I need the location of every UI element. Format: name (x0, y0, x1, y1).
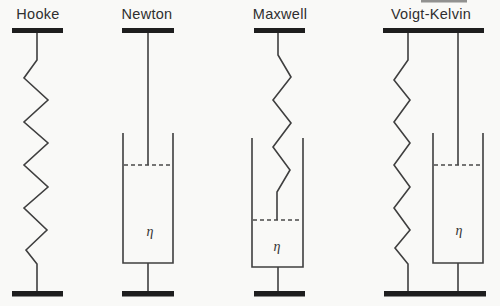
model-hooke: Hooke (12, 6, 63, 297)
model-label-maxwell: Maxwell (253, 6, 307, 22)
model-newton: Newton η (122, 6, 174, 297)
top-anchor-bar (254, 28, 305, 33)
viscosity-label: η (274, 239, 281, 254)
model-voigt-kelvin: Voigt-Kelvin η (383, 6, 486, 297)
model-label-hooke: Hooke (16, 6, 59, 22)
model-maxwell: Maxwell η (252, 6, 307, 297)
viscoelastic-models-figure: Hooke Newton η Maxwell η (0, 0, 500, 306)
bottom-anchor-bar (384, 291, 486, 297)
spring-icon (394, 33, 410, 291)
bottom-anchor-bar (254, 291, 305, 297)
top-anchor-bar (122, 28, 174, 33)
bottom-anchor-bar (122, 291, 174, 297)
model-label-newton: Newton (122, 6, 173, 22)
top-anchor-bar (12, 28, 63, 33)
top-anchor-bar (383, 28, 484, 33)
spring-icon (24, 33, 48, 291)
viscosity-label: η (147, 224, 154, 239)
scan-artifact (421, 0, 467, 3)
model-label-voigt-kelvin: Voigt-Kelvin (391, 6, 471, 22)
spring-icon (273, 33, 291, 220)
models-diagram: Hooke Newton η Maxwell η (0, 0, 500, 306)
bottom-anchor-bar (12, 291, 63, 297)
viscosity-label: η (456, 223, 463, 238)
